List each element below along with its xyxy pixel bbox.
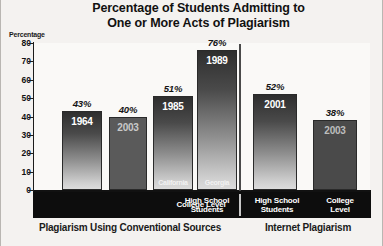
bar-value-label: 51% (153, 83, 193, 94)
y-tick-mark (28, 153, 34, 154)
y-tick-mark (28, 43, 34, 44)
bar-value-label: 38% (313, 107, 357, 118)
y-tick-mark (28, 117, 34, 118)
bar: 2001 (253, 94, 297, 190)
y-tick-mark (28, 61, 34, 62)
y-tick-mark (28, 98, 34, 99)
chart-title: Percentage of Students Admitting to One … (31, 1, 366, 30)
bar-value-label: 76% (197, 37, 237, 48)
category-label: College Level (311, 192, 369, 218)
bar: 2003 (313, 120, 357, 190)
bar: 1985California (153, 96, 193, 190)
chart-title-line-1: Percentage of Students Admitting to (92, 1, 305, 15)
bar: 1964 (62, 111, 102, 190)
category-band-divider (239, 194, 241, 216)
bar-value-label: 43% (62, 98, 102, 109)
bar-year-label: 2003 (110, 122, 146, 133)
bar: 1989Georgia (197, 50, 237, 190)
bar: 2003 (109, 117, 147, 191)
bar-region-label: California (154, 179, 192, 186)
bar-region-label: Georgia (198, 179, 236, 186)
group-label: Plagiarism Using Conventional Sources (15, 222, 245, 233)
bar-year-label: 1985 (154, 101, 192, 112)
group-divider (239, 44, 241, 191)
bar-year-label: 2003 (314, 125, 356, 136)
category-label-band: College LevelHigh School StudentsHigh Sc… (33, 192, 371, 218)
y-tick-mark (28, 135, 34, 136)
bar-year-label: 2001 (254, 99, 296, 110)
y-tick-mark (28, 80, 34, 81)
bar-year-label: 1989 (198, 55, 236, 66)
chart-figure: Percentage of Students Admitting to One … (0, 0, 383, 246)
bar-value-label: 40% (109, 104, 147, 115)
bar-value-label: 52% (253, 81, 297, 92)
y-axis-title: Percentage (9, 31, 45, 38)
y-tick-mark (28, 190, 34, 191)
category-label: High School Students (175, 192, 239, 218)
bar-year-label: 1964 (63, 116, 101, 127)
group-label: Internet Plagiarism (245, 222, 371, 233)
category-label: High School Students (243, 192, 311, 218)
y-tick-mark (28, 172, 34, 173)
chart-title-line-2: One or More Acts of Plagiarism (31, 16, 366, 31)
